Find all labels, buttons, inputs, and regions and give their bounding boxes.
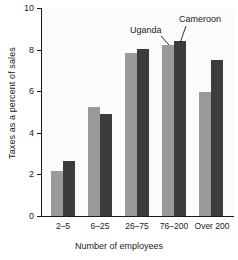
bar-chart: Taxes as a percent of sales 10 8 6 4 2 0… [0, 0, 238, 260]
leader-line-uganda [161, 36, 169, 45]
annotation-leader-lines [0, 0, 238, 260]
leader-line-cameroon [180, 26, 186, 43]
